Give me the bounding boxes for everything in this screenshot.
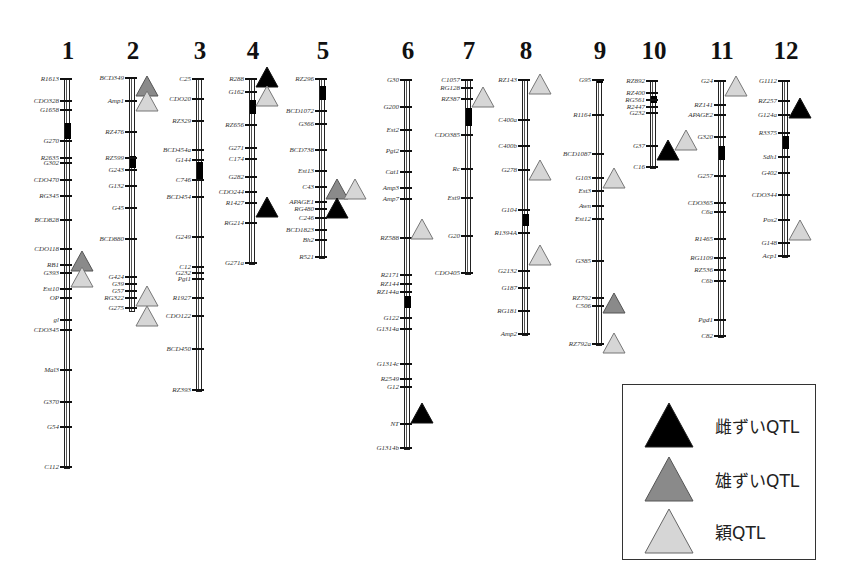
marker-tick [125, 157, 137, 159]
marker-label: R3375 [759, 129, 777, 137]
marker-label: CDO345 [34, 326, 59, 334]
spikelet-qtl-triangle-icon [410, 218, 434, 240]
marker-label: R1613 [41, 75, 59, 83]
marker-tick [400, 129, 412, 131]
marker-tick [192, 98, 204, 100]
marker-label: CDO405 [435, 269, 460, 277]
marker-label: C174 [229, 155, 244, 163]
marker-tick [192, 272, 204, 274]
marker-label: G30 [387, 76, 399, 84]
marker-tick [192, 278, 204, 280]
marker-label: BCD1072 [286, 107, 314, 115]
marker-label: Amp7 [383, 195, 399, 203]
marker-label: G95 [579, 76, 591, 84]
marker-label: C1057 [441, 76, 460, 84]
marker-tick [400, 106, 412, 108]
marker-label: G54 [47, 423, 59, 431]
marker-tick [461, 168, 473, 170]
marker-tick [461, 79, 473, 81]
marker-label: G402 [761, 169, 777, 177]
marker-tick [400, 79, 412, 81]
marker-tick [714, 280, 726, 282]
marker-tick [315, 229, 327, 231]
marker-tick [518, 209, 530, 211]
marker-tick [60, 78, 72, 80]
female-qtl-triangle-icon [325, 197, 349, 219]
legend-item-male: 雄ずいQTL [643, 455, 799, 503]
marker-tick [592, 205, 604, 207]
marker-tick [60, 179, 72, 181]
chromosome-number: 2 [127, 38, 140, 63]
marker-tick [518, 287, 530, 289]
marker-tick [245, 124, 257, 126]
marker-label: R1427 [226, 199, 244, 207]
marker-tick [125, 276, 137, 278]
marker-label: C506 [576, 302, 591, 310]
marker-label: R1465 [695, 235, 713, 243]
marker-label: RZ144a [377, 288, 399, 296]
marker-label: RZ536 [694, 266, 713, 274]
marker-label: C6b [701, 277, 713, 285]
marker-label: RZ329 [172, 117, 191, 125]
marker-tick [60, 369, 72, 371]
marker-label: Amp1 [108, 97, 124, 105]
marker-tick [245, 222, 257, 224]
marker-label: G1314c [377, 360, 399, 368]
marker-label: C400a [498, 116, 517, 124]
marker-tick [315, 170, 327, 172]
marker-tick [400, 363, 412, 365]
marker-label: RZ393 [172, 386, 191, 394]
marker-label: Amp2 [501, 330, 517, 338]
marker-label: BCD738 [290, 146, 315, 154]
marker-tick [518, 333, 530, 335]
marker-tick [400, 447, 412, 449]
spikelet-qtl-triangle-icon [528, 244, 552, 266]
marker-label: RG214 [224, 219, 244, 227]
marker-label: Est9 [448, 194, 460, 202]
marker-label: G302 [43, 159, 59, 167]
marker-label: G385 [575, 257, 591, 265]
spikelet-qtl-triangle-icon [602, 167, 626, 189]
marker-label: G370 [43, 398, 59, 406]
marker-tick [518, 270, 530, 272]
marker-tick [646, 106, 658, 108]
marker-tick [245, 262, 257, 264]
chromosome-bar [718, 81, 724, 338]
chromosome-number: 10 [642, 38, 667, 63]
marker-label: CDO118 [34, 245, 59, 253]
marker-label: G270 [43, 137, 59, 145]
spikelet-qtl-triangle-icon [70, 266, 94, 288]
marker-label: G366 [298, 120, 314, 128]
legend: 雌ずいQTL 雄ずいQTL 穎QTL [622, 384, 816, 560]
marker-tick [518, 119, 530, 121]
marker-tick [778, 255, 790, 257]
marker-tick [60, 466, 72, 468]
marker-tick [125, 131, 137, 133]
centromere [523, 214, 529, 226]
marker-tick [192, 179, 204, 181]
marker-tick [192, 236, 204, 238]
marker-label: C25 [179, 75, 191, 83]
marker-label: BCD349 [100, 74, 125, 82]
marker-label: RZ792 [572, 294, 591, 302]
marker-tick [245, 147, 257, 149]
marker-label: CDO344 [752, 191, 777, 199]
marker-tick [400, 283, 412, 285]
marker-tick [778, 194, 790, 196]
marker-tick [646, 99, 658, 101]
marker-tick [125, 238, 137, 240]
spikelet-qtl-triangle-icon [643, 507, 695, 555]
marker-tick [778, 80, 790, 82]
marker-label: RZ144 [380, 280, 399, 288]
marker-label: G162 [228, 88, 244, 96]
female-qtl-triangle-icon [643, 401, 695, 449]
marker-label: G132 [108, 182, 124, 190]
spikelet-qtl-triangle-icon [135, 285, 159, 307]
centromere [783, 136, 789, 149]
marker-label: G124a [758, 111, 777, 119]
marker-tick [518, 310, 530, 312]
marker-label: Amp3 [383, 184, 399, 192]
marker-tick [60, 401, 72, 403]
marker-label: G1112 [759, 77, 777, 85]
marker-label: G271a [225, 259, 244, 267]
